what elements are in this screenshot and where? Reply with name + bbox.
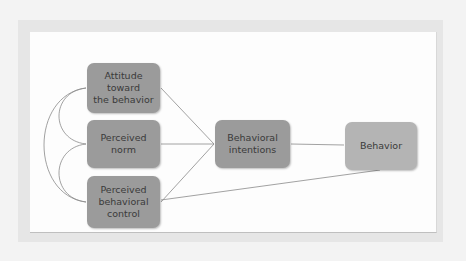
node-perceived-control: Perceived behavioral control bbox=[87, 176, 160, 228]
node-perceived-norm: Perceived norm bbox=[87, 120, 160, 168]
node-behavior: Behavior bbox=[345, 122, 417, 170]
node-attitude-label: Attitude toward the behavior bbox=[93, 70, 153, 106]
node-behavioral-intentions: Behavioral intentions bbox=[215, 120, 290, 168]
node-perceived-norm-label: Perceived norm bbox=[100, 132, 146, 156]
node-perceived-control-label: Perceived behavioral control bbox=[98, 184, 148, 220]
node-attitude: Attitude toward the behavior bbox=[87, 63, 160, 113]
node-behavior-label: Behavior bbox=[360, 140, 402, 152]
node-behavioral-intentions-label: Behavioral intentions bbox=[227, 132, 278, 156]
